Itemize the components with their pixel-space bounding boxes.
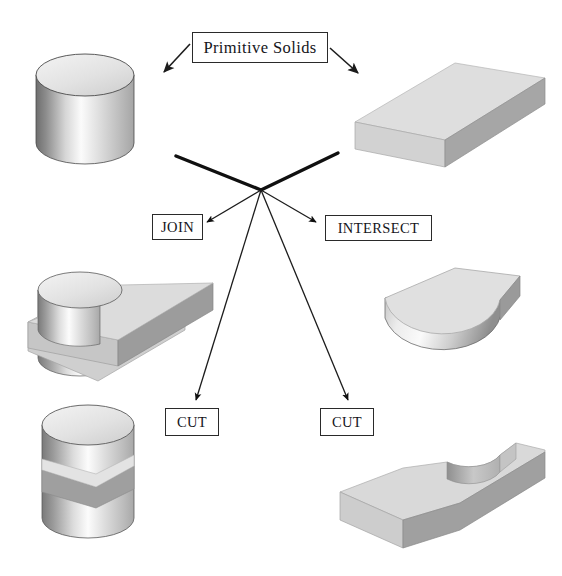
half-disc-intersection [385,268,520,350]
arrow-hub-to-join [207,190,261,222]
box-with-circular-notch-cut [340,443,545,548]
diagram-canvas: Primitive Solids JOIN INTERSECT CUT CUT [0,0,562,576]
label-cut-left: CUT [165,408,219,436]
arrow-hub-to-intersect [261,190,316,222]
label-join: JOIN [152,214,203,240]
label-cut-right: CUT [320,408,374,436]
arrow-hub-to-cut-left [196,190,261,400]
arrow-to-cylinder [164,44,190,72]
cylinder-primitive [36,54,134,164]
arrow-from-box-to-hub [261,153,338,190]
cylinder-box-union [28,272,213,381]
cylinder-with-slot-cut [42,405,134,538]
label-primitive-solids: Primitive Solids [192,32,328,63]
arrow-from-cylinder-to-hub [176,156,261,190]
arrow-to-box [330,48,358,73]
label-intersect: INTERSECT [325,215,432,241]
rectangular-box-primitive [355,63,545,167]
diagram-graphics [0,0,562,576]
